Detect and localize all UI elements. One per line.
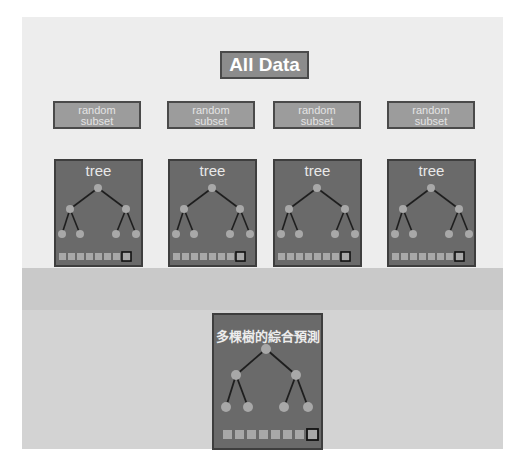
ensemble-label: 多棵樹的綜合預測 [214, 326, 321, 345]
random-subset-box-2: random subset [167, 101, 255, 129]
all-data-title: All Data [220, 51, 309, 79]
random-subset-box-4: random subset [387, 101, 475, 129]
tree-card-2: tree [168, 159, 257, 267]
random-subset-box-3: random subset [273, 101, 361, 129]
subset-label-line2: subset [169, 116, 253, 127]
ensemble-prediction-card: 多棵樹的綜合預測 [212, 313, 323, 450]
random-subset-box-1: random subset [53, 101, 141, 129]
tree-card-4: tree [387, 159, 476, 267]
tree-label: tree [170, 162, 255, 179]
tree-label: tree [275, 162, 360, 179]
subset-label-line2: subset [275, 116, 359, 127]
tree-label: tree [56, 162, 141, 179]
subset-label-line2: subset [389, 116, 473, 127]
tree-label: tree [389, 162, 474, 179]
subset-label-line2: subset [55, 116, 139, 127]
tree-card-3: tree [273, 159, 362, 267]
background-band [22, 268, 503, 310]
tree-card-1: tree [54, 159, 143, 267]
